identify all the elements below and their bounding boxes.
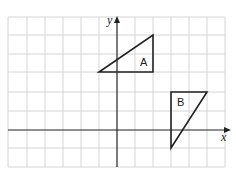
y-axis: y [106, 13, 120, 167]
coordinate-grid: x y A B [0, 0, 236, 171]
triangle-b-label: B [177, 96, 184, 108]
x-axis-label: x [220, 130, 227, 144]
y-axis-label: y [106, 13, 113, 27]
triangle-a-label: A [140, 56, 148, 68]
x-axis: x [8, 127, 231, 144]
